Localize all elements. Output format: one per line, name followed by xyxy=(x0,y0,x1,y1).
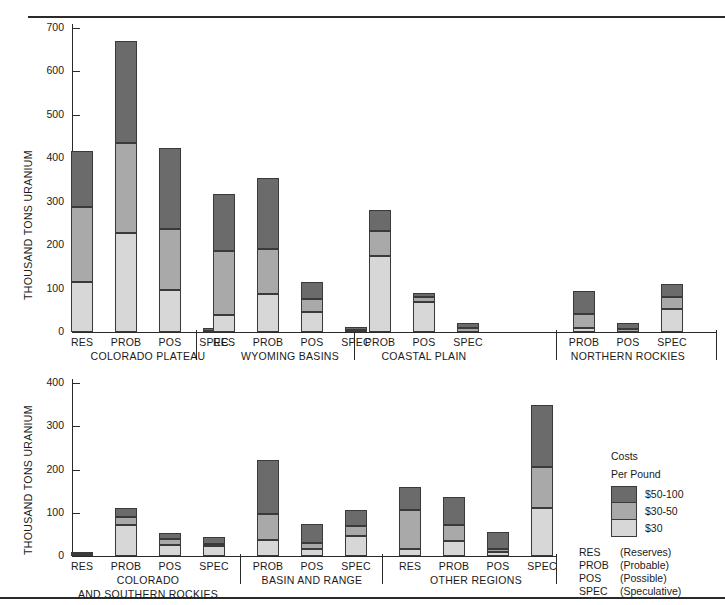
bar-segment xyxy=(443,497,465,525)
bar-segment xyxy=(617,329,639,332)
bar-segment xyxy=(399,487,421,510)
abbreviation-code: POS xyxy=(579,572,601,584)
abbreviation-code: RES xyxy=(579,546,601,558)
bar-segment xyxy=(115,41,137,143)
x-category-label: SPEC xyxy=(512,560,572,572)
bar-segment xyxy=(443,541,465,556)
stacked-bar[interactable] xyxy=(413,293,435,332)
bar-segment xyxy=(399,549,421,556)
bar-segment xyxy=(301,543,323,549)
bar-segment xyxy=(573,328,595,332)
bar-segment xyxy=(617,323,639,329)
bar-segment xyxy=(257,249,279,295)
legend-title-line1: Costs xyxy=(611,450,638,462)
bar-segment xyxy=(531,508,553,556)
stacked-bar[interactable] xyxy=(71,553,93,556)
bar-segment xyxy=(413,297,435,302)
bar-segment xyxy=(301,549,323,556)
stacked-bar[interactable] xyxy=(159,533,181,556)
bar-segment xyxy=(257,178,279,248)
x-category-label: SPEC xyxy=(438,336,498,348)
bar-segment xyxy=(399,510,421,549)
x-group-label: OTHER REGIONS xyxy=(366,574,586,586)
bar-segment xyxy=(159,539,181,545)
stacked-bar[interactable] xyxy=(115,41,137,332)
abbreviation-text: (Probable) xyxy=(620,559,669,571)
y-tick-mark xyxy=(73,513,80,514)
bar-segment xyxy=(203,546,225,556)
bar-segment xyxy=(203,544,225,547)
bar-segment xyxy=(213,251,235,314)
bar-segment xyxy=(257,514,279,540)
stacked-bar[interactable] xyxy=(661,284,683,332)
stacked-bar[interactable] xyxy=(345,327,367,332)
bar-segment xyxy=(443,525,465,541)
abbreviation-code: SPEC xyxy=(579,585,608,597)
bar-segment xyxy=(257,294,279,332)
bar-segment xyxy=(301,312,323,332)
stacked-bar[interactable] xyxy=(257,460,279,556)
chart-figure: 0100200300400500600700THOUSAND TONS URAN… xyxy=(0,0,725,605)
bar-segment xyxy=(345,510,367,526)
abbreviation-text: (Speculative) xyxy=(620,585,681,597)
x-group-label: NORTHERN ROCKIES xyxy=(518,350,725,362)
bar-segment xyxy=(159,148,181,229)
stacked-bar[interactable] xyxy=(617,323,639,332)
bar-segment xyxy=(413,302,435,332)
bar-segment xyxy=(159,545,181,556)
y-tick-mark xyxy=(73,71,80,72)
bar-segment xyxy=(115,233,137,332)
bar-segment xyxy=(413,293,435,296)
stacked-bar[interactable] xyxy=(399,487,421,556)
bar-segment xyxy=(257,460,279,514)
bar-segment xyxy=(457,328,479,332)
stacked-bar[interactable] xyxy=(115,508,137,556)
x-axis-line xyxy=(72,556,556,557)
stacked-bar[interactable] xyxy=(457,323,479,332)
bar-segment xyxy=(115,525,137,556)
stacked-bar[interactable] xyxy=(203,537,225,556)
stacked-bar[interactable] xyxy=(301,282,323,332)
bar-segment xyxy=(531,405,553,467)
bar-segment xyxy=(115,517,137,526)
stacked-bar[interactable] xyxy=(159,148,181,332)
x-axis-line xyxy=(72,332,716,333)
stacked-bar[interactable] xyxy=(213,194,235,332)
y-axis-title: THOUSAND TONS URANIUM xyxy=(22,405,34,555)
abbreviation-code: PROB xyxy=(579,559,609,571)
bar-segment xyxy=(487,549,509,552)
legend-swatch xyxy=(611,520,637,537)
stacked-bar[interactable] xyxy=(369,210,391,332)
bar-segment xyxy=(345,327,367,330)
stacked-bar[interactable] xyxy=(573,291,595,332)
legend-item-label: $30-50 xyxy=(645,505,678,517)
bar-segment xyxy=(661,297,683,309)
stacked-bar[interactable] xyxy=(257,178,279,332)
bar-segment xyxy=(115,143,137,232)
stacked-bar[interactable] xyxy=(71,151,93,332)
y-tick-label: 700 xyxy=(28,21,64,33)
stacked-bar[interactable] xyxy=(443,497,465,556)
bar-segment xyxy=(203,537,225,543)
y-tick-label: 400 xyxy=(28,376,64,388)
bar-segment xyxy=(345,526,367,536)
bar-segment xyxy=(531,467,553,509)
bar-segment xyxy=(457,323,479,328)
bar-segment xyxy=(301,282,323,299)
x-category-label: SPEC xyxy=(326,560,386,572)
stacked-bar[interactable] xyxy=(301,524,323,556)
bar-segment xyxy=(661,309,683,332)
bar-segment xyxy=(71,207,93,281)
bar-segment xyxy=(369,210,391,231)
top-horizontal-rule xyxy=(28,16,725,18)
stacked-bar[interactable] xyxy=(487,532,509,556)
bar-segment xyxy=(487,552,509,556)
y-tick-mark xyxy=(73,383,80,384)
abbreviation-text: (Reserves) xyxy=(620,546,671,558)
legend-swatch xyxy=(611,486,637,503)
stacked-bar[interactable] xyxy=(531,405,553,556)
bar-segment xyxy=(661,284,683,297)
stacked-bar[interactable] xyxy=(345,510,367,556)
x-group-label-second-line: AND SOUTHERN ROCKIES xyxy=(38,588,258,600)
y-tick-mark xyxy=(73,470,80,471)
